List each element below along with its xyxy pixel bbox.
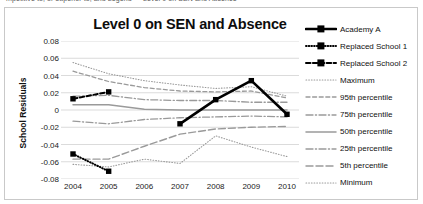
series-marker [284, 112, 289, 117]
legend-swatch [305, 177, 337, 189]
plot-area [61, 41, 299, 179]
series-marker [106, 169, 111, 174]
y-tick-label: -0.02 [25, 123, 59, 132]
series-line [73, 136, 287, 167]
y-axis-tick-labels: 0.080.060.040.020-0.02-0.04-0.06-0.08 [21, 41, 59, 179]
chart-frame: Level 0 on SEN and Absence School Residu… [4, 7, 418, 200]
series-line [73, 105, 287, 110]
legend-swatch [305, 74, 337, 86]
legend-item-label: 50th percentile [340, 127, 392, 136]
y-tick-label: 0 [25, 106, 59, 115]
plot-svg [61, 41, 299, 179]
cut-off-header-text: mpetitive to, or superior to, and Legend… [6, 0, 237, 2]
series-line [73, 126, 287, 159]
series-marker [213, 97, 218, 102]
y-tick-label: 0.04 [25, 71, 59, 80]
x-tick-label: 2009 [231, 182, 271, 191]
legend-swatch [305, 126, 337, 138]
legend-item[interactable]: Minimum [305, 176, 372, 190]
x-tick-label: 2005 [89, 182, 129, 191]
legend-item[interactable]: 95th percentile [305, 90, 392, 104]
legend-swatch [305, 143, 337, 155]
legend-swatch [305, 23, 337, 35]
legend-item[interactable]: Replaced School 2 [305, 56, 407, 70]
legend-item-label: Minimum [340, 178, 372, 187]
cut-off-header-strip: mpetitive to, or superior to, and Legend… [0, 0, 423, 6]
legend-item[interactable]: Maximum [305, 73, 375, 87]
legend-item[interactable]: 50th percentile [305, 125, 392, 139]
legend-item-label: Academy A [340, 25, 380, 34]
x-tick-label: 2010 [267, 182, 307, 191]
legend-item-label: Replaced School 2 [340, 59, 407, 68]
y-tick-label: 0.06 [25, 54, 59, 63]
chart-screenshot: mpetitive to, or superior to, and Legend… [0, 0, 423, 204]
y-tick-label: 0.02 [25, 88, 59, 97]
series-line [73, 154, 109, 171]
data-series [70, 63, 289, 174]
legend-swatch [305, 160, 337, 172]
legend-item-label: 95th percentile [340, 93, 392, 102]
legend-item-label: 75th percentile [340, 110, 392, 119]
series-marker [70, 96, 75, 101]
legend-swatch [305, 57, 337, 69]
chart-title: Level 0 on SEN and Absence [75, 16, 305, 32]
y-tick-label: -0.06 [25, 157, 59, 166]
legend-item-label: 5th percentile [340, 161, 388, 170]
legend-item[interactable]: Academy A [305, 22, 380, 36]
legend-item[interactable]: Replaced School 1 [305, 39, 407, 53]
legend-swatch [305, 40, 337, 52]
x-tick-label: 2006 [124, 182, 164, 191]
series-marker [106, 89, 111, 94]
legend-item-label: Maximum [340, 76, 375, 85]
legend-item-label: Replaced School 1 [340, 42, 407, 51]
legend-item[interactable]: 5th percentile [305, 159, 388, 173]
legend-item-label: 25th percentile [340, 144, 392, 153]
legend-swatch [305, 109, 337, 121]
legend-item[interactable]: 25th percentile [305, 142, 392, 156]
legend-item[interactable]: 75th percentile [305, 108, 392, 122]
y-tick-label: -0.04 [25, 140, 59, 149]
series-line [73, 95, 287, 102]
legend-swatch [305, 91, 337, 103]
x-tick-label: 2007 [160, 182, 200, 191]
chart-legend: Academy AReplaced School 1Replaced Schoo… [305, 22, 417, 194]
x-axis-tick-labels: 2004200520062007200820092010 [61, 182, 299, 196]
x-tick-label: 2008 [196, 182, 236, 191]
series-marker [177, 121, 182, 126]
series-marker [70, 151, 75, 156]
y-tick-label: 0.08 [25, 37, 59, 46]
x-tick-label: 2004 [53, 182, 93, 191]
series-marker [249, 78, 254, 83]
